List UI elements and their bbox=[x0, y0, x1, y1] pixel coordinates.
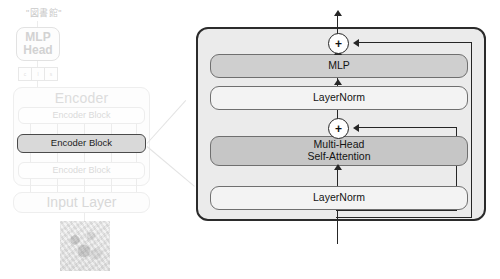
residual-bottom-arrow-icon bbox=[353, 124, 359, 132]
token-cell-s: s bbox=[45, 67, 58, 81]
input-tick-4 bbox=[111, 179, 112, 192]
mlp-head-box: MLP Head bbox=[16, 27, 60, 61]
input-layer-box: Input Layer bbox=[13, 192, 150, 213]
mlp-head-line1: MLP bbox=[25, 31, 50, 44]
layernorm-top-output-arrow-icon bbox=[334, 79, 342, 85]
residual-add-top: + bbox=[328, 33, 349, 54]
multi-head-self-attention-box: Multi-Head Self-Attention bbox=[210, 136, 468, 166]
encoder-tick-5 bbox=[136, 124, 137, 134]
token-cell-l: l bbox=[32, 67, 45, 81]
block-output-wire bbox=[337, 14, 339, 35]
encoder-tick-3 bbox=[84, 124, 85, 134]
encoder-tick-6 bbox=[30, 153, 31, 162]
encoder-block-bottom[interactable]: Encoder Block bbox=[18, 162, 145, 179]
residual-bottom-horizontal-wire bbox=[358, 127, 457, 129]
encoder-tick-10 bbox=[136, 153, 137, 162]
input-image-thumbnail bbox=[60, 221, 110, 271]
encoder-tick-7 bbox=[57, 153, 58, 162]
class-token-row: c l s bbox=[18, 67, 58, 81]
block-output-arrow-icon bbox=[334, 10, 342, 16]
class-label: "図書館" bbox=[14, 7, 74, 20]
layernorm-bottom-output-arrow-icon bbox=[334, 164, 342, 170]
encoder-tick-9 bbox=[111, 153, 112, 162]
encoder-tick-8 bbox=[84, 153, 85, 162]
mlp-head-line2: Head bbox=[23, 44, 52, 57]
token-cell-cls: c bbox=[18, 67, 32, 81]
residual-top-base-wire bbox=[336, 217, 471, 219]
input-tick-1 bbox=[30, 179, 31, 192]
residual-top-arrow-icon bbox=[353, 39, 359, 47]
block-input-wire bbox=[337, 210, 339, 244]
residual-add-bottom: + bbox=[328, 118, 349, 139]
layernorm-bottom-box: LayerNorm bbox=[210, 186, 468, 210]
attention-line2: Self-Attention bbox=[307, 151, 370, 163]
encoder-block-top[interactable]: Encoder Block bbox=[18, 107, 145, 124]
residual-top-vertical-wire bbox=[471, 42, 473, 218]
encoder-title: Encoder bbox=[13, 89, 150, 107]
mlp-box: MLP bbox=[210, 54, 468, 78]
encoder-tick-1 bbox=[30, 124, 31, 134]
input-tick-3 bbox=[84, 179, 85, 192]
diagram-canvas: "図書館" MLP Head c l s Encoder Encoder Blo… bbox=[0, 0, 500, 279]
residual-top-horizontal-wire bbox=[358, 42, 472, 44]
input-tick-2 bbox=[57, 179, 58, 192]
encoder-tick-2 bbox=[57, 124, 58, 134]
expansion-line-top bbox=[147, 100, 187, 144]
encoder-block-highlighted[interactable]: Encoder Block bbox=[17, 134, 146, 153]
layernorm-top-box: LayerNorm bbox=[210, 86, 468, 110]
input-tick-5 bbox=[136, 179, 137, 192]
encoder-tick-4 bbox=[111, 124, 112, 134]
architecture-overview-panel: "図書館" MLP Head c l s Encoder Encoder Blo… bbox=[0, 0, 182, 279]
encoder-block-detail-panel: + MLP LayerNorm + Multi-Head Self-Attent… bbox=[182, 0, 500, 279]
